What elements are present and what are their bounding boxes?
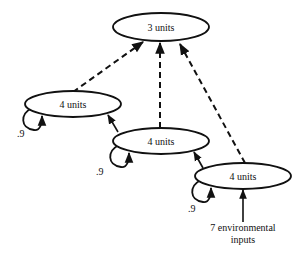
- node-top: 3 units: [113, 13, 209, 41]
- self-loop-middle-weight: .9: [96, 166, 104, 177]
- self-loop-left-weight: .9: [17, 128, 25, 139]
- edge-left-to-top: [73, 42, 143, 92]
- network-diagram: 3 units 4 units 4 units 4 units .9 .9 .9…: [0, 0, 308, 255]
- edge-middle-to-left: [108, 115, 118, 132]
- input-label-line2: inputs: [231, 234, 256, 245]
- node-left-label: 4 units: [60, 99, 87, 110]
- node-right-label: 4 units: [230, 171, 257, 182]
- edge-right-to-middle: [194, 152, 203, 168]
- input-label-line1: 7 environmental: [210, 222, 275, 233]
- node-middle-label: 4 units: [148, 136, 175, 147]
- self-loop-right-weight: .9: [188, 203, 196, 214]
- node-top-label: 3 units: [148, 22, 175, 33]
- node-left: 4 units: [25, 91, 121, 117]
- node-right: 4 units: [195, 163, 291, 189]
- node-middle: 4 units: [113, 128, 209, 154]
